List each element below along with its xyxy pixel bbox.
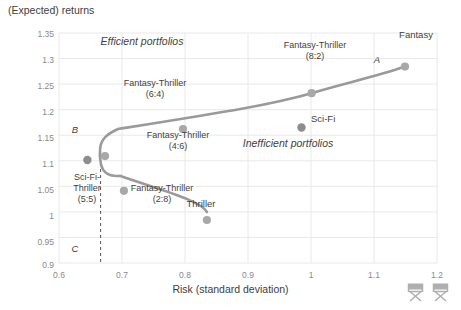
label-sci-fi: Sci-Fi [311, 113, 357, 124]
label-fantasy: Fantasy [386, 29, 446, 40]
chart-container: (Expected) returns 1.35 1.3 1.25 1.2 1.1… [0, 0, 461, 310]
label-sci-fi-thriller-5-5-line2: Thriller [57, 183, 117, 194]
director-chair-icon [405, 280, 453, 304]
point-letter-b: B [60, 124, 90, 135]
x-axis-title: Risk (standard deviation) [0, 283, 461, 295]
point-letter-c: C [60, 243, 90, 254]
label-fantasy-thriller-4-6-line2: (4:6) [108, 141, 248, 152]
label-fantasy-thriller-6-4-line2: (6:4) [85, 89, 225, 100]
label-fantasy-thriller-8-2-line2: (8:2) [245, 51, 385, 62]
label-sci-fi-thriller-5-5-line3: (5:5) [57, 194, 117, 205]
marker-thriller [203, 216, 211, 224]
marker-fantasy [401, 63, 409, 71]
label-fantasy-thriller-4-6-line1: Fantasy-Thriller [108, 130, 248, 141]
label-fantasy-thriller-8-2-line1: Fantasy-Thriller [245, 40, 385, 51]
label-sci-fi-thriller-5-5-line1: Sci-Fi- [57, 172, 117, 183]
marker-fantasy-thriller-8-2 [308, 89, 316, 97]
marker-sci-fi-thriller-5-5 [83, 156, 91, 164]
region-label-efficient: Efficient portfolios [62, 36, 222, 47]
marker-sci-fi [297, 123, 305, 131]
label-fantasy-thriller-6-4-line1: Fantasy-Thriller [85, 78, 225, 89]
marker-fantasy-thriller-4-6 [101, 152, 109, 160]
